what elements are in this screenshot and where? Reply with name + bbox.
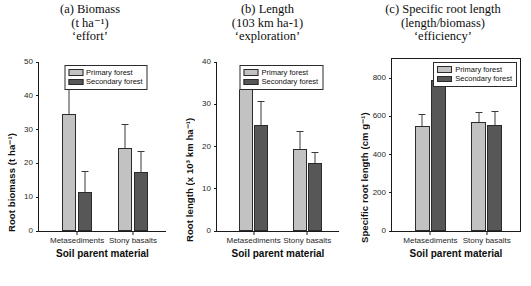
error-bar (422, 115, 423, 126)
y-axis-tick-label: 800 (373, 74, 389, 82)
panel-a-title-line1: (a) Biomass (0, 3, 180, 17)
y-axis-tick-label: 10 (202, 184, 213, 192)
panel-c-title-line1: (c) Specific root length (355, 3, 531, 17)
legend-swatch-secondary (243, 79, 258, 86)
legend-item-secondary: Secondary forest (68, 78, 143, 86)
x-axis-tick-mark (77, 231, 78, 235)
panel-b-plot: Root length (x 10³ km ha⁻¹) 010203040Met… (180, 48, 355, 286)
panel-b-title-line2: (103 km ha-1) (180, 17, 355, 31)
y-axis-tick-label: 0 (207, 227, 214, 235)
error-bar-cap (138, 151, 145, 152)
x-axis-tick-mark (430, 231, 431, 235)
error-bar-cap (419, 114, 426, 115)
bar-primary-forest (118, 148, 133, 231)
y-axis-tick-mark (36, 197, 40, 198)
legend-label-primary: Primary forest (261, 69, 308, 77)
x-axis-label: Soil parent material (217, 248, 339, 259)
error-bar (124, 125, 125, 149)
error-bar (494, 112, 495, 125)
y-axis-tick-mark (389, 116, 393, 117)
panel-a-plot: Root biomass (t ha⁻¹) 01020304050Metased… (0, 48, 180, 286)
legend-label-secondary: Secondary forest (455, 75, 512, 83)
x-axis-tick-mark (486, 231, 487, 235)
legend-label-primary: Primary forest (455, 66, 502, 74)
legend-label-secondary: Secondary forest (261, 78, 318, 86)
error-bar-cap (121, 124, 128, 125)
y-axis-tick-label: 200 (373, 188, 389, 196)
bar-primary-forest (471, 122, 486, 231)
y-axis-tick-mark (36, 95, 40, 96)
bar-secondary-forest (487, 125, 502, 231)
legend: Primary forestSecondary forest (64, 65, 148, 90)
bar-secondary-forest (78, 192, 93, 231)
y-axis-tick-label: 20 (24, 159, 35, 167)
error-bar-cap (312, 152, 319, 153)
y-axis-tick-mark (36, 163, 40, 164)
y-axis-tick-label: 400 (373, 150, 389, 158)
legend: Primary forestSecondary forest (239, 65, 323, 90)
y-axis-tick-label: 30 (202, 100, 213, 108)
panel-c-title-line3: ‘efficiency’ (355, 30, 531, 44)
panel-b-ylabel: Root length (x 10³ km ha⁻¹) (184, 70, 195, 242)
error-bar-cap (296, 131, 303, 132)
error-bar (261, 102, 262, 125)
x-axis-label: Soil parent material (392, 248, 520, 259)
panel-c-title-line2: (length/biomass) (355, 17, 531, 31)
x-axis-tick-label: Metasediments (403, 236, 457, 245)
x-axis-tick-label: Metasediments (226, 236, 280, 245)
legend-swatch-primary (437, 66, 452, 73)
legend: Primary forestSecondary forest (433, 62, 517, 87)
panel-b-title: (b) Length (103 km ha-1) ‘exploration’ (180, 0, 355, 48)
y-axis-tick-label: 600 (373, 112, 389, 120)
panel-a-title-line2: (t ha⁻¹) (0, 17, 180, 31)
legend-swatch-secondary (437, 76, 452, 83)
panel-a-ylabel: Root biomass (t ha⁻¹) (6, 82, 17, 232)
y-axis-tick-mark (36, 62, 40, 63)
x-axis-tick-mark (307, 231, 308, 235)
bar-secondary-forest (254, 125, 268, 231)
x-axis-tick-label: Metasediments (50, 236, 104, 245)
y-axis-tick-label: 10 (24, 193, 35, 201)
panel-c-specific-root-length: (c) Specific root length (length/biomass… (355, 0, 531, 286)
y-axis-tick-label: 40 (202, 58, 213, 66)
panel-a-biomass: (a) Biomass (t ha⁻¹) ‘effort’ Root bioma… (0, 0, 180, 286)
y-axis-tick-mark (36, 231, 40, 232)
x-axis-label: Soil parent material (39, 248, 166, 259)
x-axis-tick-label: Stony basalts (463, 236, 511, 245)
bar-primary-forest (62, 114, 77, 231)
bar-secondary-forest (308, 163, 322, 231)
y-axis-tick-mark (214, 231, 218, 232)
figure-root-traits: (a) Biomass (t ha⁻¹) ‘effort’ Root bioma… (0, 0, 531, 286)
panel-a-title-line3: ‘effort’ (0, 30, 180, 44)
panel-a-axes: 01020304050MetasedimentsStony basaltsSoi… (38, 62, 166, 232)
y-axis-tick-label: 0 (29, 227, 36, 235)
y-axis-tick-mark (214, 188, 218, 189)
x-axis-tick-mark (132, 231, 133, 235)
panel-c-axes: 0200400600800MetasedimentsStony basaltsS… (391, 58, 521, 232)
bar-primary-forest (415, 126, 430, 231)
legend-item-primary: Primary forest (243, 69, 318, 77)
y-axis-tick-mark (214, 104, 218, 105)
panel-b-length: (b) Length (103 km ha-1) ‘exploration’ R… (180, 0, 355, 286)
bar-primary-forest (293, 149, 307, 231)
panel-b-title-line1: (b) Length (180, 3, 355, 17)
legend-item-primary: Primary forest (68, 69, 143, 77)
error-bar-cap (82, 171, 89, 172)
error-bar (299, 132, 300, 149)
legend-item-primary: Primary forest (437, 66, 512, 74)
error-bar (478, 113, 479, 123)
y-axis-tick-mark (389, 192, 393, 193)
error-bar-cap (491, 111, 498, 112)
bar-secondary-forest (431, 80, 446, 231)
legend-label-secondary: Secondary forest (86, 78, 143, 86)
legend-label-primary: Primary forest (86, 69, 133, 77)
legend-swatch-secondary (68, 79, 83, 86)
error-bar-cap (475, 112, 482, 113)
panel-c-plot: Specific root length (cm g⁻¹) 0200400600… (355, 48, 531, 286)
panel-c-title: (c) Specific root length (length/biomass… (355, 0, 531, 48)
legend-item-secondary: Secondary forest (437, 75, 512, 83)
error-bar (315, 153, 316, 164)
y-axis-tick-mark (214, 62, 218, 63)
legend-item-secondary: Secondary forest (243, 78, 318, 86)
legend-swatch-primary (68, 69, 83, 76)
